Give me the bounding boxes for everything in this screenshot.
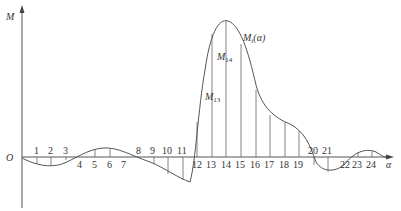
tick-label: 24 [366, 159, 376, 170]
tick-label: 10 [162, 145, 172, 156]
tick-label: 5 [92, 159, 97, 170]
tick-label: 23 [352, 159, 362, 170]
influence-curve [22, 21, 386, 182]
tick-label: 14 [221, 159, 231, 170]
tick-label: 21 [322, 145, 332, 156]
tick-label: 4 [77, 159, 82, 170]
tick-label: 22 [340, 159, 350, 170]
tick-label: 11 [177, 145, 187, 156]
tick-label: 2 [48, 145, 53, 156]
curve-label: Mi(α) [242, 32, 266, 45]
tick-label: 17 [264, 159, 274, 170]
y-axis-label: M [5, 11, 15, 22]
tick-label: 20 [308, 145, 318, 156]
x-axis-label: α [386, 159, 392, 170]
tick-label: 6 [107, 159, 112, 170]
tick-label: 18 [279, 159, 289, 170]
tick-label: 9 [150, 145, 155, 156]
tick-label: 7 [121, 159, 126, 170]
tick-label: 8 [136, 145, 141, 156]
origin-label: O [6, 152, 13, 163]
annotation-m13: M13 [204, 91, 221, 104]
y-axis-arrow-icon [20, 5, 25, 13]
diagram-canvas: M O α Mi(α) M14 M13 1 2 3 4 5 6 7 8 9 10… [0, 0, 401, 211]
tick-label: 15 [235, 159, 245, 170]
tick-label: 16 [250, 159, 260, 170]
tick-label: 19 [293, 159, 303, 170]
tick-label: 12 [192, 159, 202, 170]
tick-label: 13 [206, 159, 216, 170]
tick-label: 1 [34, 145, 39, 156]
influence-line-diagram: M O α Mi(α) M14 M13 1 2 3 4 5 6 7 8 9 10… [0, 0, 401, 211]
tick-label: 3 [63, 145, 68, 156]
annotation-m14: M14 [216, 51, 233, 64]
